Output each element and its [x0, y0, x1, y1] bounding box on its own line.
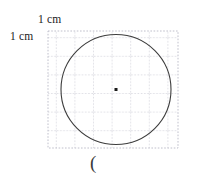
centimeter-grid — [48, 31, 178, 148]
diagram-canvas — [0, 0, 201, 192]
bottom-parenthesis-text: ( — [90, 152, 96, 174]
circle-center-dot — [115, 88, 118, 91]
geometry-figure: 1 cm 1 cm ( — [0, 0, 201, 192]
